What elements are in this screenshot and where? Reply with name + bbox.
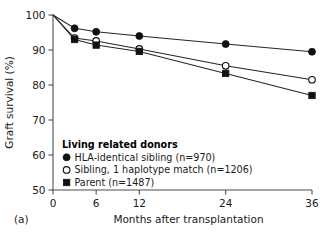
y-tick-label-50: 50 bbox=[32, 184, 45, 196]
series-2-point-24 bbox=[222, 70, 228, 76]
legend-marker-0 bbox=[63, 154, 70, 161]
series-line-0 bbox=[53, 15, 312, 52]
series-0-point-12 bbox=[136, 33, 143, 40]
series-0-point-24 bbox=[222, 41, 229, 48]
x-tick-label-36: 36 bbox=[305, 197, 319, 209]
series-1-point-36 bbox=[309, 76, 316, 83]
series-1-point-24 bbox=[222, 62, 229, 69]
line-chart: 506070809010006122436Months after transp… bbox=[0, 0, 334, 241]
panel-label: (a) bbox=[14, 213, 29, 225]
legend-label-0: HLA-identical sibling (n=970) bbox=[75, 152, 216, 163]
y-tick-label-90: 90 bbox=[32, 44, 45, 56]
legend-label-2: Parent (n=1487) bbox=[75, 177, 155, 188]
series-2-point-6 bbox=[93, 42, 99, 48]
y-tick-label-100: 100 bbox=[25, 9, 45, 21]
x-tick-label-12: 12 bbox=[133, 197, 146, 209]
y-tick-label-60: 60 bbox=[32, 149, 45, 161]
legend-marker-2 bbox=[63, 179, 69, 185]
graft-survival-figure: 506070809010006122436Months after transp… bbox=[0, 0, 334, 241]
series-line-2 bbox=[53, 15, 312, 96]
y-tick-label-70: 70 bbox=[32, 114, 45, 126]
series-2-point-36 bbox=[309, 92, 315, 98]
y-axis-title: Graft survival (%) bbox=[3, 56, 15, 149]
x-tick-label-6: 6 bbox=[93, 197, 100, 209]
x-tick-label-0: 0 bbox=[50, 197, 57, 209]
series-0-point-36 bbox=[309, 48, 316, 55]
legend-title: Living related donors bbox=[62, 139, 178, 150]
legend-label-1: Sibling, 1 haplotype match (n=1206) bbox=[75, 164, 253, 175]
series-2-point-3 bbox=[71, 36, 77, 42]
series-0-point-3 bbox=[71, 25, 78, 32]
x-axis-title: Months after transplantation bbox=[113, 213, 263, 225]
series-0-point-6 bbox=[93, 28, 100, 35]
x-tick-label-24: 24 bbox=[219, 197, 233, 209]
series-2-point-12 bbox=[136, 48, 142, 54]
series-line-1 bbox=[53, 15, 312, 80]
legend-marker-1 bbox=[63, 167, 70, 174]
y-tick-label-80: 80 bbox=[32, 79, 45, 91]
